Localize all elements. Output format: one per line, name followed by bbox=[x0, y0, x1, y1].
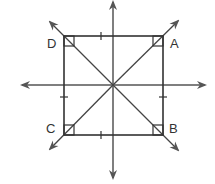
diagonal-ray-sw bbox=[50, 85, 113, 149]
diagonal-ray-nw bbox=[50, 22, 113, 85]
square-diagonals-diagram: D A C B bbox=[0, 0, 215, 184]
vertex-label-c: C bbox=[46, 121, 55, 136]
diagonal-ray-ne bbox=[113, 21, 178, 85]
vertex-label-d: D bbox=[47, 36, 56, 51]
vertex-label-a: A bbox=[170, 36, 179, 51]
diagonal-ray-se bbox=[113, 85, 178, 150]
vertex-label-b: B bbox=[169, 121, 178, 136]
